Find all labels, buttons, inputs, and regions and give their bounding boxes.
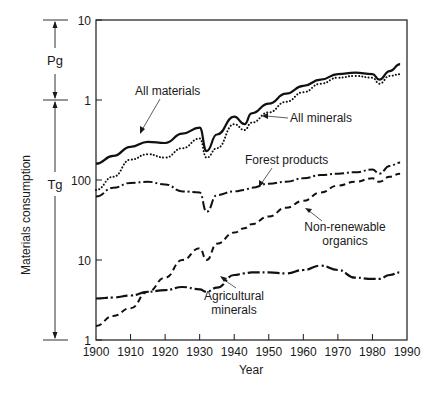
x-tick-label: 1960 xyxy=(290,345,317,359)
y-tick-label: 1 xyxy=(84,94,91,108)
series-lines xyxy=(96,64,400,326)
x-tick-label: 1930 xyxy=(186,345,213,359)
label-nonrenewable-1: Non-renewable xyxy=(304,220,386,234)
y-tick-label: 10 xyxy=(78,254,92,268)
materials-consumption-chart: 101100101 190019101920193019401950196019… xyxy=(0,0,436,393)
x-tick-label: 1920 xyxy=(152,345,179,359)
x-axis: 1900191019201930194019501960197019801990 xyxy=(83,334,421,359)
series-all-materials xyxy=(96,64,400,164)
series-forest-products xyxy=(96,163,400,212)
y-axis-title: Materials consumption xyxy=(19,155,33,275)
x-tick-label: 1950 xyxy=(255,345,282,359)
label-all-materials: All materials xyxy=(135,84,200,98)
x-tick-label: 1900 xyxy=(83,345,110,359)
label-all-minerals: All minerals xyxy=(290,111,352,125)
y-tick-label: 10 xyxy=(78,14,92,28)
x-tick-label: 1980 xyxy=(359,345,386,359)
pg-label: Pg xyxy=(47,53,63,68)
annotations: All materials All minerals Forest produc… xyxy=(135,84,386,317)
label-nonrenewable-2: organics xyxy=(322,234,367,248)
x-tick-label: 1990 xyxy=(394,345,421,359)
tg-label: Tg xyxy=(47,177,62,192)
x-axis-title: Year xyxy=(239,363,263,377)
label-agricultural-1: Agricultural xyxy=(204,289,264,303)
label-forest-products: Forest products xyxy=(245,153,328,167)
x-tick-label: 1910 xyxy=(117,345,144,359)
x-tick-label: 1940 xyxy=(221,345,248,359)
label-agricultural-2: minerals xyxy=(211,303,256,317)
y-tick-label: 100 xyxy=(71,174,91,188)
x-tick-label: 1970 xyxy=(325,345,352,359)
